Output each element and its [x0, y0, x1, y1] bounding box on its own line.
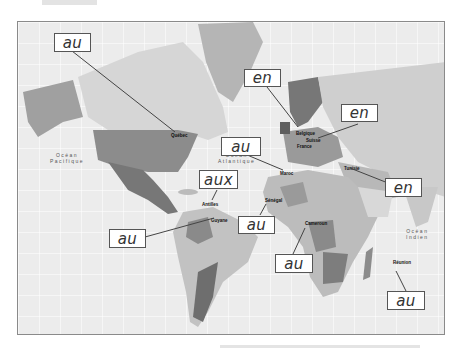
place-senegal: Sénégal: [265, 198, 282, 203]
annotation-box-quebec[interactable]: au: [54, 33, 91, 52]
place-belgique: Belgique: [296, 131, 315, 136]
annotation-box-maroc[interactable]: au: [221, 137, 261, 156]
place-maroc: Maroc: [280, 171, 293, 176]
annotation-text: au: [63, 34, 83, 52]
annotation-box-suisse[interactable]: en: [341, 104, 378, 122]
place-suisse: Suisse: [306, 138, 321, 143]
annotation-box-cameroun[interactable]: au: [275, 254, 313, 273]
annotation-box-guyane[interactable]: au: [109, 229, 146, 248]
annotation-box-reunion[interactable]: au: [387, 291, 425, 310]
annotation-box-antilles[interactable]: aux: [199, 170, 238, 189]
annotation-text: au: [284, 255, 304, 273]
place-guyane: Guyane: [211, 218, 228, 223]
annotation-text: en: [253, 69, 273, 87]
annotation-text: au: [231, 138, 251, 156]
annotation-text: au: [396, 292, 416, 310]
annotation-box-tunisie[interactable]: en: [385, 178, 422, 197]
annotation-box-senegal[interactable]: au: [238, 216, 275, 234]
place-quebec: Québec: [171, 133, 188, 138]
place-tunisie: Tunisie: [344, 166, 359, 171]
faded-header-text: [42, 0, 97, 5]
annotation-text: en: [350, 104, 370, 122]
annotation-text: au: [118, 230, 138, 248]
ocean-label-indian: Océan Indien: [406, 228, 429, 240]
ocean-label-pacific: Océan Pacifique: [50, 152, 84, 164]
annotation-text: au: [247, 216, 267, 234]
place-antilles: Antilles: [202, 202, 218, 207]
annotation-box-belgique[interactable]: en: [244, 69, 281, 87]
place-reunion: Réunion: [393, 260, 411, 265]
place-france: France: [297, 144, 312, 149]
place-cameroun: Cameroun: [305, 221, 327, 226]
faded-footer-text: [220, 345, 420, 348]
annotation-text: aux: [204, 171, 233, 189]
annotation-text: en: [394, 179, 414, 197]
